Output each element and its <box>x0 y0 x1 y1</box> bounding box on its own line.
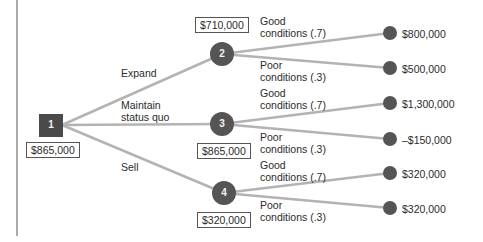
condition-label: Good conditions (.7) <box>260 15 326 39</box>
chance-node-number: 4 <box>214 187 234 198</box>
expected-value-box: $320,000 <box>197 212 251 228</box>
alternative-label: Maintain status quo <box>121 99 169 123</box>
payoff-value: –$150,000 <box>402 134 452 146</box>
alternative-label: Expand <box>121 67 157 79</box>
branch-maintain <box>62 124 222 125</box>
payoff-value: $320,000 <box>402 203 446 215</box>
condition-label: Poor conditions (.3) <box>260 199 326 223</box>
condition-label: Good conditions (.7) <box>260 87 326 111</box>
chance-node-number: 2 <box>212 48 232 59</box>
condition-label: Poor conditions (.3) <box>260 131 326 155</box>
decision-tree-diagram: 1 2 3 4 $865,000 $710,000 $865,000 $320,… <box>0 0 483 242</box>
expected-value-box: $865,000 <box>197 143 251 159</box>
condition-label: Poor conditions (.3) <box>260 59 326 83</box>
payoff-value: $320,000 <box>402 168 446 180</box>
alternative-label: Sell <box>121 161 139 173</box>
condition-label: Good conditions (.7) <box>260 159 326 183</box>
terminal-node <box>383 201 397 215</box>
payoff-value: $800,000 <box>402 28 446 40</box>
payoff-value: $1,300,000 <box>402 98 455 110</box>
chance-node-number: 3 <box>212 118 232 129</box>
decision-value-box: $865,000 <box>26 142 80 158</box>
terminal-node <box>383 26 397 40</box>
branch-sell <box>62 125 224 193</box>
terminal-node <box>383 61 397 75</box>
payoff-value: $500,000 <box>402 63 446 75</box>
decision-node-number: 1 <box>41 119 61 130</box>
terminal-node <box>383 166 397 180</box>
expected-value-box: $710,000 <box>195 17 249 33</box>
terminal-node <box>383 132 397 146</box>
terminal-node <box>383 96 397 110</box>
